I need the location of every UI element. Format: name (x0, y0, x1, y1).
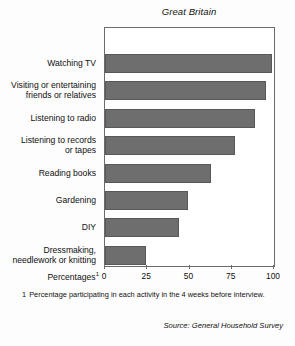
category-label-line: Listening to records (0, 135, 96, 145)
category-label-2: Visiting or entertainingfriends or relat… (0, 80, 96, 100)
x-tick-label-100: 100 (266, 271, 280, 281)
category-axis-labels: Watching TVVisiting or entertainingfrien… (0, 28, 99, 266)
category-label-5: Reading books (0, 168, 96, 178)
x-tick-mark-75 (231, 265, 232, 269)
bar-fill (105, 136, 235, 155)
x-tick-mark-50 (189, 265, 190, 269)
category-label-line: Visiting or entertaining (0, 80, 96, 90)
category-label-line: Listening to radio (0, 113, 96, 123)
category-label-line: Gardening (0, 195, 96, 205)
bar-fill (105, 109, 255, 128)
category-label-line: needlework or knitting (0, 255, 96, 265)
bar-fill (105, 218, 179, 237)
source-note: Source: General Household Survey (164, 321, 283, 330)
chart-title: Great Britain (104, 6, 274, 17)
bar-7 (105, 218, 179, 237)
category-label-line: friends or relatives (0, 90, 96, 100)
category-label-line: DIY (0, 222, 96, 232)
category-label-8: Dressmaking,needlework or knitting (0, 245, 96, 265)
bar-fill (105, 81, 266, 100)
bar-8 (105, 246, 146, 265)
bar-3 (105, 109, 255, 128)
chart-figure: Great Britain Watching TVVisiting or ent… (0, 0, 295, 346)
category-label-line: Reading books (0, 168, 96, 178)
x-tick-mark-25 (146, 265, 147, 269)
footnote-marker: 1 (22, 290, 26, 299)
footnote-text: Percentage participating in each activit… (29, 290, 264, 299)
bar-fill (105, 54, 272, 73)
category-label-line: or tapes (0, 145, 96, 155)
bars-layer (105, 28, 274, 266)
x-tick-label-0: 0 (102, 271, 107, 281)
x-tick-label-50: 50 (184, 271, 193, 281)
category-label-3: Listening to radio (0, 113, 96, 123)
bar-fill (105, 164, 211, 183)
bar-fill (105, 191, 188, 210)
category-label-6: Gardening (0, 195, 96, 205)
category-label-line: Watching TV (0, 58, 96, 68)
footnote: 1Percentage participating in each activi… (22, 290, 282, 299)
bar-fill (105, 246, 146, 265)
x-tick-label-25: 25 (142, 271, 151, 281)
category-label-line: Dressmaking, (0, 245, 96, 255)
x-axis-title: Percentages1 (10, 271, 99, 282)
category-label-4: Listening to recordsor tapes (0, 135, 96, 155)
bar-4 (105, 136, 235, 155)
bar-2 (105, 81, 266, 100)
category-label-1: Watching TV (0, 58, 96, 68)
x-tick-mark-100 (273, 265, 274, 269)
bar-6 (105, 191, 188, 210)
x-axis: 0255075100 (104, 265, 275, 287)
x-tick-mark-0 (104, 265, 105, 269)
category-label-7: DIY (0, 222, 96, 232)
bar-5 (105, 164, 211, 183)
x-tick-label-75: 75 (226, 271, 235, 281)
bar-1 (105, 54, 272, 73)
x-axis-footnote-marker: 1 (96, 271, 99, 277)
